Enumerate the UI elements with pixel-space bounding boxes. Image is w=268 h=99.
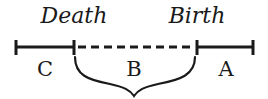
- timeline-diagram: Death Birth C B A: [0, 0, 268, 99]
- segment-a-label: A: [217, 57, 234, 81]
- segment-c-label: C: [37, 57, 53, 81]
- segment-b-label: B: [126, 57, 141, 81]
- death-label: Death: [40, 3, 108, 28]
- birth-label: Birth: [168, 3, 226, 28]
